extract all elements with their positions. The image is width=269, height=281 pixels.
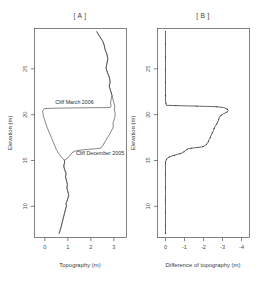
panel-b-series-group [165,31,228,234]
panel-b-title: [ B ] [196,12,210,20]
x-tick-label: 2 [89,244,92,250]
data-point-marker [165,212,166,213]
panel-a-x-ticks: 0123 [43,238,115,250]
data-point-marker [197,147,198,148]
x-tick-label: -4 [239,244,244,250]
data-point-marker [165,187,166,188]
data-point-marker [175,105,176,106]
panel-a-plot-frame [35,29,127,238]
y-tick-label: 25 [145,66,151,72]
data-series-line [59,32,115,234]
data-series-line [165,32,228,234]
y-tick-label: 10 [22,203,28,209]
panel-b-y-axis-label: Elevation (m) [130,116,136,151]
x-tick-label: -3 [220,244,225,250]
data-point-marker [226,112,227,113]
x-tick-label: 0 [43,244,46,250]
data-point-marker [210,137,211,138]
panel-a-y-ticks: 10152025 [22,66,35,210]
data-point-marker [196,106,197,107]
y-tick-label: 25 [22,66,28,72]
data-point-marker [165,44,166,45]
data-point-marker [165,56,166,57]
data-point-marker [165,103,166,104]
data-point-marker [212,132,213,133]
y-tick-label: 20 [22,112,28,118]
data-point-marker [165,225,166,226]
data-point-marker [165,95,166,96]
panel-b-x-axis-label: Difference of topography (m) [166,262,241,268]
data-point-marker [166,159,167,160]
x-tick-label: 0 [164,244,167,250]
x-tick-label: 1 [66,244,69,250]
figure-container: [ A ] 0123 10152025 Cliff March 2006Clif… [0,0,269,281]
data-point-marker [216,123,217,124]
data-point-marker [165,69,166,70]
data-point-marker [208,141,209,142]
data-point-marker [216,106,217,107]
panel-b: [ B ] 0-1-2-3-4 10152025 Difference of t… [130,12,250,268]
y-tick-label: 15 [22,157,28,163]
panel-b-x-ticks: 0-1-2-3-4 [164,238,244,250]
data-series-line [43,32,112,234]
two-panel-profile-chart: [ A ] 0123 10152025 Cliff March 2006Clif… [0,0,269,281]
data-point-marker [165,162,166,163]
data-point-marker [174,155,175,156]
data-point-marker [206,144,207,145]
panel-b-plot-frame [158,29,250,238]
data-point-marker [179,153,180,154]
panel-a: [ A ] 0123 10152025 Cliff March 2006Clif… [7,12,127,268]
plot-annotation-label: Cliff December 2005 [76,150,124,156]
data-point-marker [220,115,221,116]
data-point-marker [214,128,215,129]
data-point-marker [169,156,170,157]
data-point-marker [165,82,166,83]
panel-a-title: [ A ] [74,12,87,20]
plot-annotation-label: Cliff March 2006 [55,99,94,105]
data-point-marker [165,233,166,234]
y-tick-label: 20 [145,112,151,118]
data-point-marker [203,146,204,147]
data-point-marker [165,199,166,200]
data-point-marker [227,108,228,109]
y-tick-label: 10 [145,203,151,209]
panel-b-y-ticks: 10152025 [145,66,158,210]
panel-a-x-axis-label: Topography (m) [59,262,100,268]
data-point-marker [187,149,188,150]
data-point-marker [165,174,166,175]
x-tick-label: -1 [182,244,187,250]
panel-a-series-group [43,32,116,234]
data-point-marker [191,148,192,149]
data-point-marker [218,119,219,120]
x-tick-label: 3 [112,244,115,250]
panel-a-y-axis-label: Elevation (m) [7,116,13,151]
y-tick-label: 15 [145,157,151,163]
x-tick-label: -2 [201,244,206,250]
data-point-marker [165,31,166,32]
data-point-marker [184,151,185,152]
